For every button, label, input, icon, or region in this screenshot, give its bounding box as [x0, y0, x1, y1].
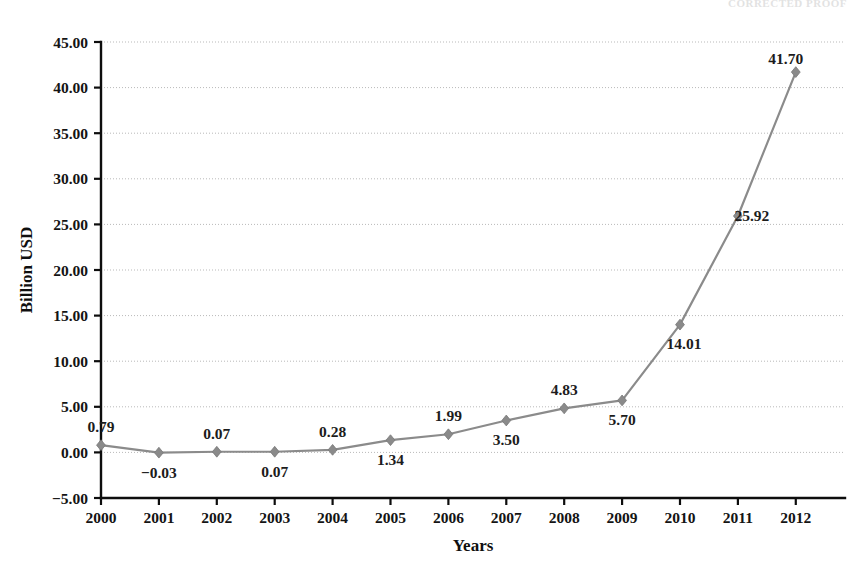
data-point-marker [444, 429, 453, 440]
data-series-line [101, 72, 796, 453]
data-point-marker [502, 415, 511, 426]
x-axis-tick-labels: 2000200120022003200420052006200720082009… [86, 509, 812, 526]
y-tick-label: 5.00 [61, 398, 88, 415]
x-tick-label: 2000 [86, 509, 117, 526]
data-point-label: 25.92 [734, 207, 769, 224]
data-point-markers [97, 67, 801, 458]
data-point-marker [212, 446, 221, 457]
x-tick-label: 2011 [723, 509, 753, 526]
x-tick-label: 2004 [317, 509, 348, 526]
x-axis-title: Years [453, 536, 494, 555]
data-point-label: 1.34 [377, 451, 404, 468]
data-point-marker [270, 446, 279, 457]
x-tick-label: 2009 [607, 509, 638, 526]
x-tick-label: 2012 [780, 509, 811, 526]
data-point-marker [791, 67, 800, 78]
data-point-marker [560, 403, 569, 414]
data-point-label: 14.01 [667, 335, 702, 352]
y-tick-label: 25.00 [53, 216, 88, 233]
y-tick-label: 0.00 [61, 444, 88, 461]
y-axis-tick-labels: −5.000.005.0010.0015.0020.0025.0030.0035… [52, 34, 88, 507]
y-tick-label: 10.00 [53, 353, 88, 370]
data-point-label: 1.99 [435, 407, 462, 424]
data-point-marker [328, 444, 337, 455]
data-point-label: 3.50 [493, 431, 520, 448]
data-point-label: 5.70 [609, 411, 636, 428]
y-axis-title: Billion USD [17, 227, 36, 313]
x-tick-label: 2010 [664, 509, 695, 526]
data-point-marker [154, 447, 163, 458]
y-tick-label: −5.00 [52, 490, 88, 507]
data-point-label: 41.70 [768, 50, 803, 67]
y-tick-label: 45.00 [53, 34, 88, 51]
y-tick-label: 15.00 [53, 307, 88, 324]
data-point-marker [97, 440, 106, 451]
y-tick-label: 35.00 [53, 125, 88, 142]
data-point-marker [386, 435, 395, 446]
y-tick-label: 40.00 [53, 79, 88, 96]
data-point-labels: 0.79−0.030.070.070.281.341.993.504.835.7… [87, 50, 803, 481]
y-tick-label: 20.00 [53, 262, 88, 279]
data-point-label: 0.79 [87, 418, 114, 435]
data-point-label: −0.03 [141, 464, 177, 481]
data-point-label: 0.07 [203, 425, 230, 442]
x-tick-label: 2002 [201, 509, 232, 526]
x-tick-label: 2001 [143, 509, 174, 526]
line-chart-plot: −5.000.005.0010.0015.0020.0025.0030.0035… [0, 0, 855, 576]
chart-figure: CORRECTED PROOF −5.000.005.0010.0015.002… [0, 0, 855, 576]
gridlines [101, 42, 845, 452]
x-tick-label: 2007 [491, 509, 522, 526]
x-tick-label: 2005 [375, 509, 406, 526]
x-tick-label: 2003 [259, 509, 290, 526]
y-tick-label: 30.00 [53, 170, 88, 187]
data-point-label: 0.28 [319, 423, 346, 440]
x-tick-label: 2008 [549, 509, 580, 526]
data-point-label: 4.83 [551, 381, 578, 398]
data-point-label: 0.07 [261, 463, 288, 480]
x-tick-label: 2006 [433, 509, 464, 526]
